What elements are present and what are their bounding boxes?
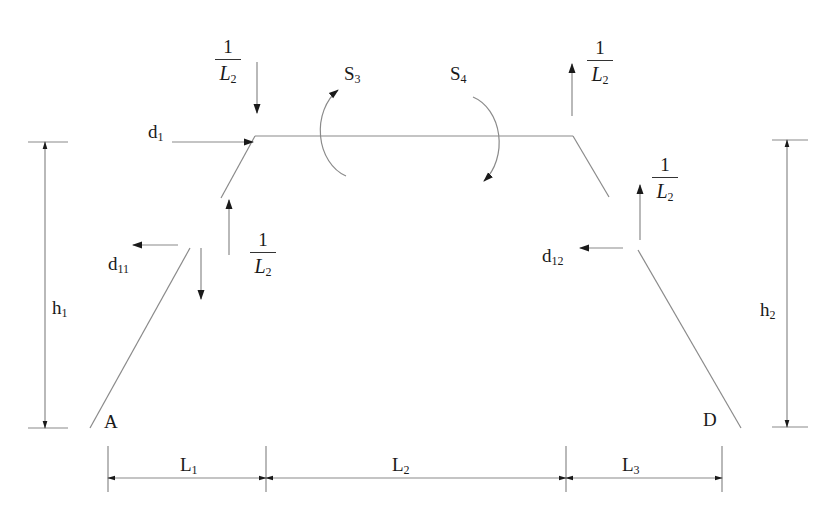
unit-load-mid-left-label: 1 L2: [248, 230, 278, 283]
right-lower-member: [638, 250, 741, 428]
S3-moment-arc: [320, 90, 346, 176]
right-upper-member: [573, 136, 609, 197]
L3-label: L3: [622, 455, 640, 476]
left-lower-member: [90, 248, 190, 428]
L1-label: L1: [180, 455, 198, 476]
left-upper-member: [221, 136, 255, 198]
d1-label: d1: [148, 122, 164, 143]
S3-label: S3: [344, 64, 361, 85]
h2-label: h2: [760, 300, 776, 321]
unit-load-mid-right-label: 1 L2: [650, 155, 680, 208]
S4-moment-arc: [473, 97, 499, 181]
d11-label: d11: [108, 254, 129, 275]
d12-label: d12: [542, 246, 564, 267]
L2-label: L2: [392, 455, 410, 476]
S4-label: S4: [450, 64, 467, 85]
node-A-label: A: [104, 412, 118, 431]
h1-label: h1: [52, 298, 68, 319]
frame-diagram: 1 L2 1 L2 1 L2 1 L2 S3 S4 d1 d11 d12 A D…: [0, 0, 838, 526]
unit-load-top-right-label: 1 L2: [585, 38, 615, 91]
node-D-label: D: [703, 410, 717, 429]
unit-load-top-left-label: 1 L2: [213, 37, 243, 90]
